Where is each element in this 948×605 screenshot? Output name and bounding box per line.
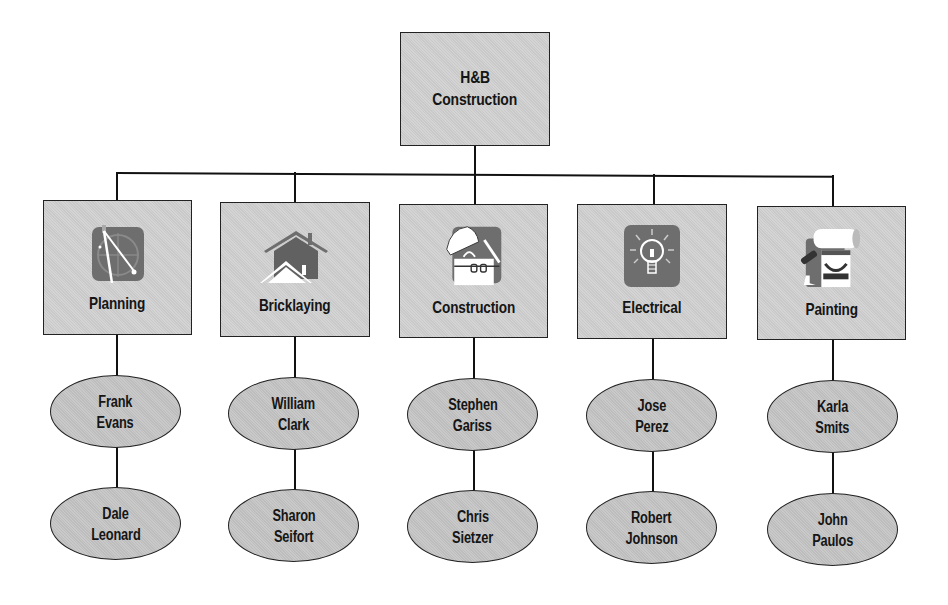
staff-first-name: Jose [637, 395, 666, 416]
staff-last-name: Perez [635, 416, 668, 437]
dept-label: Planning [89, 294, 145, 314]
dept-label: Electrical [623, 298, 682, 318]
staff-node: Frank Evans [50, 375, 181, 448]
staff-first-name: Sharon [272, 505, 315, 526]
bricklaying-staff-connector [294, 336, 296, 378]
house-icon [260, 221, 330, 285]
electrical-staff-connector [652, 338, 654, 380]
staff-node: Chris Sietzer [407, 490, 538, 563]
root-node-hb-construction: H&B Construction [400, 32, 550, 146]
dept-node-painting: Painting [757, 206, 906, 340]
painting-staff2-connector [832, 452, 834, 494]
bricklaying-staff2-connector [294, 448, 296, 490]
staff-node: Sharon Seifort [228, 489, 359, 562]
root-title-line1: H&B [460, 67, 490, 89]
staff-first-name: Stephen [448, 394, 497, 415]
staff-first-name: Chris [457, 506, 489, 527]
planning-connector [116, 172, 118, 201]
staff-last-name: Clark [278, 414, 309, 435]
staff-last-name: Sietzer [452, 527, 493, 548]
planning-staff-connector [116, 334, 118, 376]
staff-node: Dale Leonard [50, 487, 181, 560]
staff-node: William Clark [228, 377, 359, 450]
dept-label: Painting [805, 300, 857, 320]
electrical-staff2-connector [652, 450, 654, 492]
staff-first-name: William [272, 393, 316, 414]
staff-last-name: Johnson [625, 528, 677, 549]
staff-last-name: Leonard [91, 524, 140, 545]
staff-last-name: Evans [97, 412, 134, 433]
bricklaying-connector [294, 172, 296, 203]
staff-node: Jose Perez [586, 379, 717, 452]
root-connector [474, 144, 476, 174]
compass-blueprint-icon [90, 219, 146, 283]
staff-first-name: Robert [631, 507, 671, 528]
dept-node-planning: Planning [43, 200, 192, 335]
staff-last-name: Paulos [812, 530, 853, 551]
painting-connector [832, 175, 834, 207]
staff-node: Robert Johnson [586, 491, 717, 564]
dept-label: Construction [432, 298, 515, 318]
dept-node-construction: Construction [399, 204, 548, 338]
staff-node: Karla Smits [767, 380, 898, 453]
construction-connector [474, 172, 476, 205]
staff-last-name: Seifort [274, 526, 313, 547]
painting-staff-connector [832, 339, 834, 381]
staff-first-name: Frank [98, 391, 132, 412]
staff-node: Stephen Gariss [407, 378, 538, 451]
staff-first-name: John [818, 509, 848, 530]
construction-staff-connector [473, 337, 475, 379]
dept-node-bricklaying: Bricklaying [220, 202, 370, 337]
electrical-connector [653, 174, 655, 205]
staff-first-name: Dale [102, 503, 128, 524]
light-bulb-icon [624, 223, 680, 287]
root-title-line2: Construction [433, 89, 518, 111]
dept-node-electrical: Electrical [577, 204, 727, 339]
staff-first-name: Karla [817, 396, 848, 417]
hard-hat-worker-icon [441, 223, 507, 287]
paint-roller-icon [799, 225, 865, 289]
planning-staff2-connector [116, 446, 118, 488]
construction-staff2-connector [473, 449, 475, 491]
dept-label: Bricklaying [259, 296, 331, 316]
staff-last-name: Gariss [453, 415, 492, 436]
staff-last-name: Smits [815, 417, 849, 438]
staff-node: John Paulos [767, 493, 898, 566]
